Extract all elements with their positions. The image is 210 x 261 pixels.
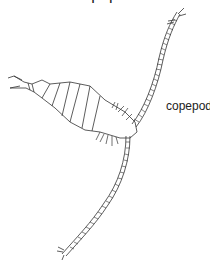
lower-antenna [57, 136, 130, 260]
copepod-legs [96, 102, 132, 146]
copepod-illustration [0, 0, 210, 261]
species-label: copepod [166, 99, 210, 113]
copepod-body [8, 76, 137, 138]
